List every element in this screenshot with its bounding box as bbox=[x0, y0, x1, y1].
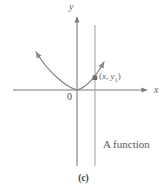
origin-label: 0 bbox=[67, 92, 72, 102]
axis-label-y: y bbox=[69, 2, 73, 12]
function-graph-svg bbox=[0, 0, 167, 192]
parabola-left-branch bbox=[36, 52, 77, 90]
point-label-close-paren: ) bbox=[118, 71, 121, 81]
figure-container: y x 0 (x, y1) A function (c) bbox=[0, 0, 167, 192]
intersection-point-marker bbox=[93, 75, 98, 80]
figure-caption: (c) bbox=[0, 173, 167, 183]
point-coordinate-label: (x, y1) bbox=[99, 72, 121, 83]
axis-label-x: x bbox=[154, 85, 158, 95]
function-annotation-label: A function bbox=[103, 139, 150, 150]
